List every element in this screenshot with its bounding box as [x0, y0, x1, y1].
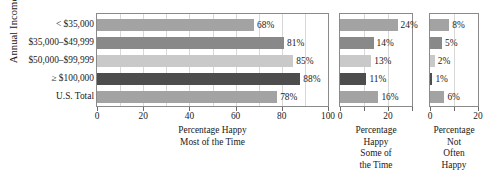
bar-value-label: 11% [366, 73, 386, 85]
x-axis-caption-line: Percentage [325, 125, 427, 137]
x-axis-caption-line: the Time [325, 160, 427, 172]
x-axis-tick-label: 0 [82, 111, 112, 121]
bar [97, 91, 277, 103]
x-axis-tick-label: 20 [128, 111, 158, 121]
happiness-by-income-chart: Annual Income < $35,000$35,000–$49,999$5… [0, 0, 485, 183]
x-axis-caption-line: Percentage Happy [82, 125, 343, 137]
bar-value-label: 13% [371, 55, 391, 67]
x-axis-caption-line: Most of the Time [82, 137, 343, 149]
x-axis-caption: PercentageNotOftenHappy [415, 125, 485, 171]
plot-area: 68%81%85%88%78% [96, 13, 329, 107]
x-axis-caption-line: Often [415, 148, 485, 160]
bar [340, 37, 374, 49]
category-axis-labels: < $35,000$35,000–$49,999$50,000–$99,999≥… [12, 13, 94, 107]
panel-percentage-happy-some-of-the-time: 24%14%13%11%16%020PercentageHappySome of… [339, 13, 413, 107]
bar-row: 5% [430, 34, 480, 52]
bar-value-label: 85% [293, 55, 313, 67]
bar-value-label: 24% [398, 19, 418, 31]
bar-row: 81% [97, 34, 330, 52]
x-axis-tick-label: 0 [415, 111, 445, 121]
x-axis-caption: Percentage HappyMost of the Time [82, 125, 343, 148]
bar-row: 14% [340, 34, 414, 52]
x-axis-caption: PercentageHappySome ofthe Time [325, 125, 427, 171]
bar-value-label: 1% [432, 73, 448, 85]
x-axis: 020406080100 [96, 107, 329, 121]
category-label: < $35,000 [12, 15, 94, 33]
bar-value-label: 78% [277, 91, 297, 103]
bar [97, 19, 254, 31]
bar-row: 8% [430, 16, 480, 34]
bar-value-label: 2% [435, 55, 451, 67]
bar-row: 24% [340, 16, 414, 34]
x-axis-caption-line: Happy [415, 160, 485, 172]
x-axis-caption-line: Not [415, 137, 485, 149]
bar [97, 55, 293, 67]
bar-row: 1% [430, 70, 480, 88]
x-axis-tick-label: 80 [267, 111, 297, 121]
bar-row: 78% [97, 88, 330, 106]
bar-value-label: 8% [449, 19, 465, 31]
x-axis-tick-label: 20 [373, 111, 403, 121]
x-axis: 020 [429, 107, 479, 121]
bar-row: 68% [97, 16, 330, 34]
bar-value-label: 16% [378, 91, 398, 103]
bar [340, 55, 371, 67]
bar-row: 88% [97, 70, 330, 88]
x-axis-tick [412, 107, 413, 111]
bar [340, 19, 398, 31]
bar-value-label: 81% [284, 37, 304, 49]
bar-row: 11% [340, 70, 414, 88]
plot-area: 24%14%13%11%16% [339, 13, 413, 107]
x-axis-tick-label: 60 [221, 111, 251, 121]
x-axis-tick-label: 0 [325, 111, 355, 121]
panel-percentage-happy-most-of-the-time: 68%81%85%88%78%020406080100Percentage Ha… [96, 13, 329, 107]
bar-row: 2% [430, 52, 480, 70]
bar [97, 37, 284, 49]
bar [430, 91, 444, 103]
x-axis-tick [454, 107, 455, 111]
bar-row: 85% [97, 52, 330, 70]
bar-value-label: 5% [442, 37, 458, 49]
category-label: U.S. Total [12, 87, 94, 105]
category-label: $50,000–$99,999 [12, 51, 94, 69]
x-axis: 020 [339, 107, 413, 121]
plot-area: 8%5%2%1%6% [429, 13, 479, 107]
bar-row: 13% [340, 52, 414, 70]
x-axis-tick-label: 20 [463, 111, 485, 121]
bar-value-label: 68% [254, 19, 274, 31]
category-label: $35,000–$49,999 [12, 33, 94, 51]
bar-value-label: 14% [374, 37, 394, 49]
bar [340, 91, 378, 103]
bar [430, 19, 449, 31]
x-axis-caption-line: Some of [325, 148, 427, 160]
bar-value-label: 88% [300, 73, 320, 85]
bar-value-label: 6% [444, 91, 460, 103]
x-axis-caption-line: Percentage [415, 125, 485, 137]
bar [340, 73, 366, 85]
panel-percentage-not-often-happy: 8%5%2%1%6%020PercentageNotOftenHappy [429, 13, 479, 107]
bar-row: 16% [340, 88, 414, 106]
bar-row: 6% [430, 88, 480, 106]
category-label: ≥ $100,000 [12, 69, 94, 87]
bar [430, 37, 442, 49]
x-axis-tick [364, 107, 365, 111]
x-axis-caption-line: Happy [325, 137, 427, 149]
bar [97, 73, 300, 85]
x-axis-tick-label: 40 [174, 111, 204, 121]
